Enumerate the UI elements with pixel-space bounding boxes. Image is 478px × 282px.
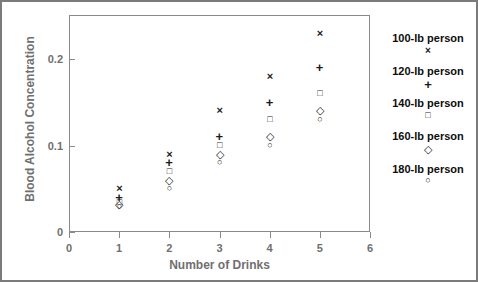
x-tick [320,232,321,238]
legend-label: 160-lb person [380,130,476,143]
x-tick [270,232,271,238]
data-point: × [267,71,273,82]
x-tick-label: 0 [59,243,79,254]
legend-label: 140-lb person [380,97,476,110]
x-tick-label: 2 [159,243,179,254]
legend-marker-icon: × [380,45,476,58]
legend-marker-icon: □ [380,110,476,123]
legend-entry[interactable]: 120-lb person+ [380,65,476,91]
x-tick-label: 4 [260,243,280,254]
x-tick [119,232,120,238]
legend-entry[interactable]: 140-lb person□ [380,97,476,123]
data-point: ○ [117,202,122,211]
x-axis-label: Number of Drinks [69,258,370,272]
x-tick [370,232,371,238]
legend-label: 120-lb person [380,65,476,78]
legend-label: 100-lb person [380,32,476,45]
data-point: □ [267,115,272,124]
y-tick [69,232,75,233]
data-point: × [217,105,223,116]
x-tick-label: 1 [109,243,129,254]
data-point: □ [317,89,322,98]
y-axis-label: Blood Alcohol Concentration [23,19,37,219]
x-tick [220,232,221,238]
data-point: + [266,96,274,109]
data-point: ○ [217,158,222,167]
chart-figure: 012345600.10.2 ×××××+++++□□□□□◇◇◇◇◇○○○○○… [0,0,478,282]
x-tick-label: 6 [360,243,380,254]
x-tick [169,232,170,238]
legend-entry[interactable]: 180-lb person○ [380,163,476,189]
legend-marker-icon: + [380,77,476,90]
data-point: × [317,28,323,39]
y-tick-label: 0 [25,227,63,238]
data-point: ○ [317,115,322,124]
legend-entry[interactable]: 100-lb person× [380,32,476,58]
legend-marker-icon: ○ [380,175,476,188]
y-tick [69,146,75,147]
plot-area [69,15,370,232]
legend-entry[interactable]: 160-lb person◇ [380,130,476,156]
data-point: ○ [167,184,172,193]
legend-marker-icon: ◇ [380,143,476,156]
legend-label: 180-lb person [380,163,476,176]
x-tick-label: 5 [310,243,330,254]
chart-legend: 100-lb person×120-lb person+140-lb perso… [380,32,476,195]
x-tick-label: 3 [210,243,230,254]
data-point: + [316,61,324,74]
y-tick [69,59,75,60]
data-point: ○ [267,141,272,150]
